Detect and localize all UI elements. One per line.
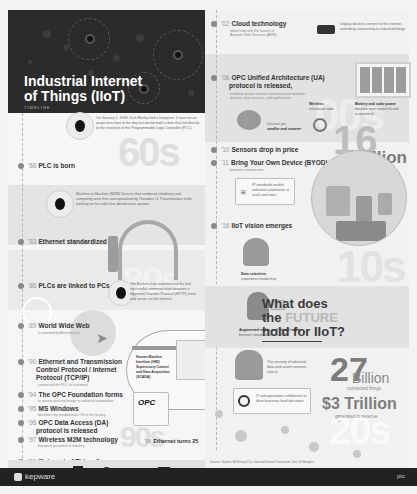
timeline-sub-02: takes hold with the launch of Amazon Web… <box>230 29 285 37</box>
person-icon <box>55 198 65 210</box>
cursor-icon: ➤ <box>96 330 108 346</box>
wireless-note: Wirelessenhanced radio <box>309 102 339 112</box>
ethernet-cable-icon <box>118 220 178 280</box>
left-column: Industrial Internet of Things (IIoT) TIM… <box>8 10 205 468</box>
security-note: The security of industrial data and asse… <box>267 360 307 375</box>
legacy-note: Legacy devices connect to the internet, … <box>340 22 408 32</box>
wifi-icon: ≋ <box>240 188 247 197</box>
m2m-note: Machine-to-Machine (M2M) Devices that co… <box>76 192 196 207</box>
timeline-sub-90: connected the PLC to a terminal <box>38 383 88 387</box>
decade-90s: 90s <box>120 420 164 454</box>
intro-note: On January 2, 1968, Dick Morley had a ha… <box>96 116 201 131</box>
ip-standards-box: ≋ IP standards enable industrial automat… <box>235 178 295 205</box>
ptc-logo[interactable]: ptc <box>397 473 405 479</box>
battery-note: Battery and solar powerbecome more power… <box>355 102 407 117</box>
paraskevakos-bubble <box>46 190 74 218</box>
timeline-sub-11: becomes mainstream <box>230 168 263 172</box>
hero-subtitle: TIMELINE <box>24 105 50 110</box>
clock-icon <box>313 118 327 132</box>
footer-bar: kepware ptc <box>0 468 417 486</box>
stat-trillion-caption: generated in revenue <box>335 414 378 419</box>
data-scientist-note: Data scientistsexperience leadership <box>241 272 301 282</box>
brain-icon <box>237 110 261 130</box>
timeline-sub-06: enabling secure remote communication bet… <box>230 92 310 100</box>
hero-banner: Industrial Internet of Things (IIoT) TIM… <box>8 10 205 113</box>
infographic-page: Industrial Internet of Things (IIoT) TIM… <box>0 0 417 494</box>
timeline-item-06: '06OPC Unified Architecture (UA) protoco… <box>211 74 325 90</box>
timeline-item-16: '16IIoT vision emerges <box>211 222 292 229</box>
timeline-bullet <box>18 163 24 169</box>
data-scientist-icon <box>243 238 269 266</box>
connected-devices-icon <box>317 25 335 34</box>
timeline-sub-97: becomes prevalent in industry <box>38 444 85 448</box>
sources-citation: Sources: Gartner, McKinsey & Co, Industr… <box>210 460 314 464</box>
morley-bubble <box>66 112 94 140</box>
hero-title: Industrial Internet of Things (IIoT) <box>24 74 142 104</box>
hmi-text: Human-MachineInterface (HMI)Supervisory … <box>136 355 176 380</box>
future-divider <box>262 341 322 342</box>
timeline-item-95: '95MS Windows <box>18 405 79 412</box>
scada-screen-icon <box>176 340 206 380</box>
it-ot-box: IT and operations collaborate to drive b… <box>233 388 311 414</box>
person-icon <box>116 287 126 299</box>
kepware-icon <box>14 473 22 481</box>
timeline-item-02: '02Cloud technology <box>211 20 286 27</box>
timeline-item-11: '11Bring Your Own Device (BYOD) <box>211 159 328 166</box>
devices-note: Devices getsmaller and smarter <box>267 122 307 132</box>
timeline-item-89: '89World Wide Web <box>18 322 89 329</box>
timeline-item-98: '98Ethernet turns 25 <box>144 438 198 444</box>
decade-60s: 60s <box>118 130 179 175</box>
timeline-sub-89: is invented by Berners-Lee <box>38 331 80 335</box>
hacker-icon <box>235 350 263 380</box>
timeline-item-68: '68PLC is born <box>18 162 75 169</box>
collaboration-icon <box>238 395 250 407</box>
stat-trillion: $3 Trillion <box>322 395 397 413</box>
timeline-item-94: '94The OPC Foundation forms <box>18 391 123 398</box>
http-note: Tim Berners-Lee implemented the first su… <box>130 282 202 302</box>
stat-27-caption: connected things <box>347 386 381 391</box>
timeline-item-83: '83Ethernet standardized <box>18 238 107 245</box>
timeline-item-86: '86PLCs are linked to PCs <box>18 282 110 289</box>
kepware-logo[interactable]: kepware <box>14 472 55 481</box>
timeline-item-97: '97Wireless M2M technology <box>18 436 118 443</box>
timeline-item-10: '10Sensors drop in price <box>211 146 298 153</box>
timeline-sub-94: to ensure data exchange in industrial au… <box>38 399 114 403</box>
timeline-item-96: '96OPC Data Access (DA) protocol is rele… <box>18 419 108 435</box>
future-heading: What does the FUTURE hold for IIoT? <box>262 297 345 339</box>
person-icon <box>75 120 85 132</box>
battery-icon <box>355 62 411 98</box>
stat-27-word: Billion <box>352 370 389 386</box>
timeline-sub-95: becomes the predominant OS in the factor… <box>38 413 106 417</box>
byod-circle <box>311 150 407 246</box>
decade-10s: 10s <box>337 242 404 292</box>
ethernet-plug-icon <box>108 236 118 272</box>
timeline-item-90: '90Ethernet and Transmission Control Pro… <box>18 358 122 382</box>
